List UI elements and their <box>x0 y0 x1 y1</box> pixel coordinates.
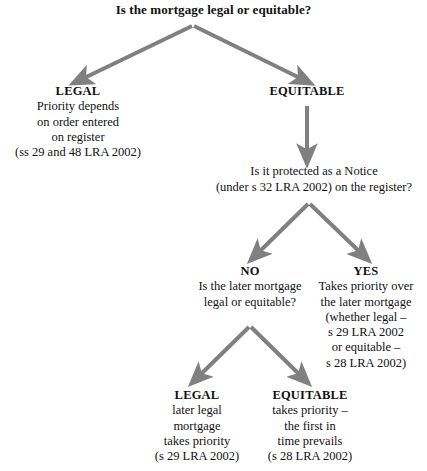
node-no-line-2: legal or equitable? <box>198 295 301 310</box>
node-yes-line-3: (whether legal – <box>319 310 414 325</box>
node-equitable-bottom-line-1: takes priority – <box>268 403 352 418</box>
arrow-root-to-legal <box>80 26 192 80</box>
node-legal-bottom: LEGAL later legal mortgage takes priorit… <box>155 388 239 464</box>
node-legal-bottom-line-3: takes priority <box>155 434 239 449</box>
node-yes-line-2: the later mortgage <box>319 295 414 310</box>
node-equitable-bottom-line-2: the first in <box>268 419 352 434</box>
arrow-root-to-equitable <box>194 26 304 80</box>
diagram-canvas: Is the mortgage legal or equitable? LEGA… <box>0 0 427 471</box>
node-legal-bottom-line-4: (s 29 LRA 2002) <box>155 449 239 464</box>
node-legal-bottom-line-2: mortgage <box>155 419 239 434</box>
arrow-no-to-equitable <box>251 327 303 378</box>
node-legal-top: LEGAL Priority depends on order entered … <box>15 84 141 160</box>
node-yes-line-1: Takes priority over <box>319 279 414 294</box>
arrow-notice-to-no <box>256 204 308 255</box>
node-equitable-bottom-line-4: (s 28 LRA 2002) <box>268 449 352 464</box>
node-legal-top-heading: LEGAL <box>15 84 141 99</box>
node-no-line-1: Is the later mortgage <box>198 279 301 294</box>
node-yes-heading: YES <box>319 264 414 279</box>
node-legal-top-line-3: on register <box>15 130 141 145</box>
arrow-notice-to-yes <box>310 204 363 255</box>
node-no-heading: NO <box>198 264 301 279</box>
node-no-branch: NO Is the later mortgage legal or equita… <box>198 264 301 310</box>
node-yes-line-5: or equitable – <box>319 340 414 355</box>
node-legal-top-line-1: Priority depends <box>15 99 141 114</box>
node-equitable-bottom-line-3: time prevails <box>268 434 352 449</box>
node-equitable-bottom: EQUITABLE takes priority – the first in … <box>268 388 352 464</box>
node-yes-branch: YES Takes priority over the later mortga… <box>319 264 414 371</box>
node-legal-bottom-heading: LEGAL <box>155 388 239 403</box>
notice-question-line-1: Is it protected as a Notice <box>216 164 412 180</box>
node-legal-top-line-4: (ss 29 and 48 LRA 2002) <box>15 145 141 160</box>
node-yes-line-4: s 29 LRA 2002 <box>319 325 414 340</box>
notice-question-line-2: (under s 32 LRA 2002) on the register? <box>216 180 412 196</box>
node-legal-bottom-line-1: later legal <box>155 403 239 418</box>
node-yes-line-6: s 28 LRA 2002) <box>319 356 414 371</box>
node-equitable-top: EQUITABLE <box>269 84 344 99</box>
page-title: Is the mortgage legal or equitable? <box>0 2 427 18</box>
notice-question: Is it protected as a Notice (under s 32 … <box>216 164 412 195</box>
node-legal-top-line-2: on order entered <box>15 115 141 130</box>
node-equitable-top-heading: EQUITABLE <box>269 84 344 99</box>
node-equitable-bottom-heading: EQUITABLE <box>268 388 352 403</box>
arrow-no-to-legal <box>197 327 249 378</box>
